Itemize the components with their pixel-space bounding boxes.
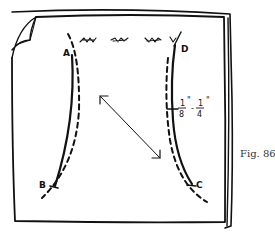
gather-mark (80, 38, 96, 42)
folded-corner (12, 17, 36, 58)
measurement-dash: - (191, 104, 194, 113)
measurement-label: 1 8 " - 1 4 " (178, 96, 210, 119)
figure-caption: Fig. 86 (240, 148, 275, 159)
fabric-back-layer-right-edge (227, 18, 229, 226)
point-label-b: B (39, 180, 46, 190)
gather-mark (145, 38, 161, 42)
point-label-a: A (63, 48, 70, 58)
gather-mark (170, 37, 176, 42)
gather-marks (80, 37, 176, 42)
point-label-c: C (196, 180, 203, 190)
gather-mark (111, 38, 128, 42)
grain-arrow (100, 96, 160, 158)
measurement-from-denominator: 8 (179, 110, 184, 119)
seam-line-a-b (55, 55, 73, 186)
measurement-to-denominator: 4 (197, 110, 202, 119)
cutting-line-a-b (42, 34, 79, 198)
figure-86-diagram: A B C D 1 8 " - 1 4 " Fig. 86 (0, 0, 275, 237)
measurement-from-numerator: 1 (180, 99, 185, 108)
point-label-d: D (181, 44, 188, 54)
measurement-to-numerator: 1 (198, 99, 203, 108)
measurement-to-unit: " (206, 96, 210, 105)
tick-c (187, 185, 196, 186)
